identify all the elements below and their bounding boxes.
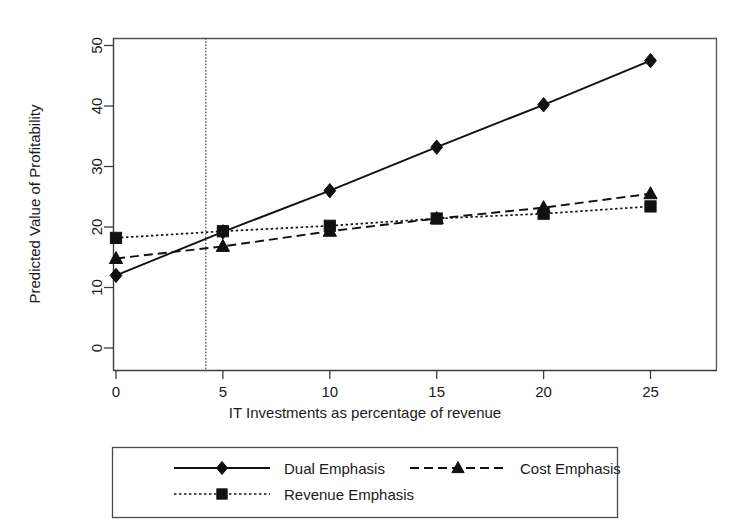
square-marker: [431, 213, 442, 224]
square-marker: [538, 208, 549, 219]
square-marker-legend: [217, 489, 227, 499]
legend-label: Dual Emphasis: [284, 460, 385, 477]
legend-label: Cost Emphasis: [520, 460, 621, 477]
chart-figure: 01020304050 Predicted Value of Profitabi…: [0, 0, 730, 532]
x-tick-label: 0: [112, 383, 120, 400]
square-marker: [110, 232, 121, 243]
y-axis-title: Predicted Value of Profitability: [26, 104, 43, 303]
chart-svg: 01020304050 Predicted Value of Profitabi…: [0, 0, 730, 532]
y-tick-label: 50: [88, 37, 105, 54]
y-tick-label: 10: [88, 279, 105, 296]
x-tick-label: 5: [219, 383, 227, 400]
chart-background: [0, 0, 730, 532]
legend-label: Revenue Emphasis: [284, 486, 414, 503]
y-tick-label: 20: [88, 219, 105, 236]
y-tick-label: 0: [88, 344, 105, 352]
y-tick-label: 30: [88, 158, 105, 175]
x-tick-label: 25: [642, 383, 659, 400]
square-marker: [217, 226, 228, 237]
x-tick-label: 10: [321, 383, 338, 400]
square-marker: [645, 201, 656, 212]
y-tick-label: 40: [88, 98, 105, 115]
x-tick-label: 20: [535, 383, 552, 400]
x-tick-label: 15: [428, 383, 445, 400]
x-axis-title: IT Investments as percentage of revenue: [229, 404, 501, 421]
square-marker: [324, 220, 335, 231]
